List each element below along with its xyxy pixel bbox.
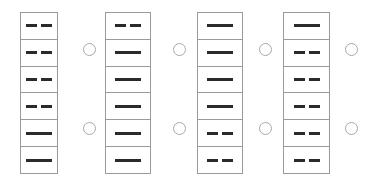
broken-dash-icon (26, 78, 52, 81)
solid-dash-icon (115, 105, 141, 108)
connector-gap4-lower[interactable] (345, 122, 358, 135)
column-4 (283, 12, 330, 174)
solid-dash-icon (207, 24, 233, 27)
solid-dash-icon (26, 159, 52, 162)
cell[interactable] (284, 40, 329, 67)
cell[interactable] (21, 93, 57, 120)
broken-dash-icon (26, 51, 52, 54)
cell[interactable] (284, 93, 329, 120)
broken-dash-icon (294, 132, 320, 135)
connector-gap4-upper[interactable] (345, 43, 358, 56)
broken-dash-icon (294, 78, 320, 81)
broken-dash-icon (207, 132, 233, 135)
broken-dash-icon (207, 159, 233, 162)
cell[interactable] (198, 93, 242, 120)
cell[interactable] (284, 13, 329, 40)
solid-dash-icon (207, 51, 233, 54)
broken-dash-icon (294, 105, 320, 108)
solid-dash-icon (115, 51, 141, 54)
broken-dash-icon (26, 105, 52, 108)
broken-dash-icon (294, 159, 320, 162)
solid-dash-icon (207, 78, 233, 81)
solid-dash-icon (26, 132, 52, 135)
cell[interactable] (106, 93, 150, 120)
column-2 (105, 12, 151, 174)
connector-gap3-lower[interactable] (259, 122, 272, 135)
solid-dash-icon (115, 132, 141, 135)
cell[interactable] (21, 67, 57, 94)
cell[interactable] (106, 120, 150, 147)
cell[interactable] (284, 67, 329, 94)
solid-dash-icon (115, 78, 141, 81)
cell[interactable] (106, 13, 150, 40)
broken-dash-icon (115, 24, 141, 27)
cell[interactable] (106, 147, 150, 173)
solid-dash-icon (115, 159, 141, 162)
cell[interactable] (284, 147, 329, 173)
cell[interactable] (21, 40, 57, 67)
diagram-canvas (0, 0, 380, 185)
solid-dash-icon (207, 105, 233, 108)
cell[interactable] (198, 147, 242, 173)
cell[interactable] (198, 120, 242, 147)
connector-gap2-upper[interactable] (173, 43, 186, 56)
connector-gap3-upper[interactable] (259, 43, 272, 56)
connector-gap1-upper[interactable] (83, 43, 96, 56)
solid-dash-icon (294, 24, 320, 27)
broken-dash-icon (26, 24, 52, 27)
cell[interactable] (106, 67, 150, 94)
cell[interactable] (198, 40, 242, 67)
connector-gap2-lower[interactable] (173, 122, 186, 135)
cell[interactable] (21, 120, 57, 147)
column-3 (197, 12, 243, 174)
column-1 (20, 12, 58, 174)
cell[interactable] (106, 40, 150, 67)
connector-gap1-lower[interactable] (83, 122, 96, 135)
cell[interactable] (21, 147, 57, 173)
cell[interactable] (284, 120, 329, 147)
cell[interactable] (198, 67, 242, 94)
broken-dash-icon (294, 51, 320, 54)
cell[interactable] (198, 13, 242, 40)
cell[interactable] (21, 13, 57, 40)
